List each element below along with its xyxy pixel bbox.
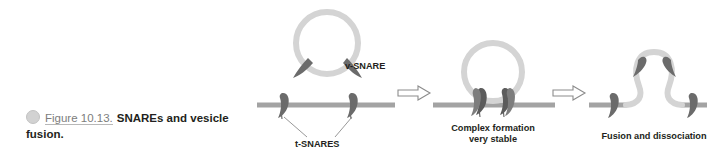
leader-line	[284, 117, 307, 137]
panel-complex-formation: Complex formation very stable	[433, 43, 555, 144]
block-arrow-right-icon	[398, 86, 430, 100]
fusion-pore-icon	[626, 52, 682, 105]
panel-label-fusion: Fusion and dissociation	[601, 131, 707, 141]
caption-line: Figure 10.13.SNAREs and vesicle fusion.	[26, 110, 256, 142]
leader-line	[335, 117, 352, 137]
v-snare-label: v-SNARE	[345, 61, 385, 71]
figure-container: Figure 10.13.SNAREs and vesicle fusion. …	[0, 0, 710, 161]
circle-bullet-icon	[26, 110, 40, 124]
figure-caption: Figure 10.13.SNAREs and vesicle fusion.	[26, 110, 256, 142]
panel-label-complex-line2: very stable	[469, 134, 517, 144]
figure-number: Figure 10.13.	[45, 112, 113, 125]
panel-label-complex-line1: Complex formation	[451, 123, 535, 133]
panel-docking: v-SNARE t-SNARES	[257, 12, 395, 149]
panel-fusion-dissociation: Fusion and dissociation	[589, 52, 707, 141]
snare-fusion-diagram: v-SNARE t-SNARES	[255, 0, 710, 161]
t-snare-label: t-SNARES	[295, 139, 339, 149]
block-arrow-right-icon	[553, 86, 585, 100]
